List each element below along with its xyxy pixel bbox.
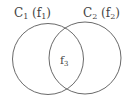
venn-diagram: C1 (f1) C2 (f2) f3 bbox=[0, 0, 126, 97]
circle-c1 bbox=[13, 24, 84, 95]
label-c1: C1 (f1) bbox=[14, 6, 51, 21]
label-intersection: f3 bbox=[60, 54, 69, 68]
label-c2: C2 (f2) bbox=[83, 6, 120, 21]
